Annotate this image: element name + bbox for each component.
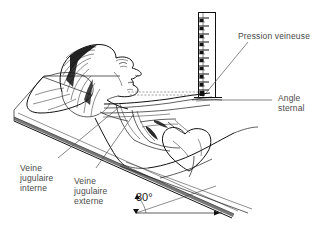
label-bed-angle: 30°: [136, 192, 153, 203]
leader-veine-jugulaire-externe: [96, 114, 134, 168]
heart: [162, 120, 210, 177]
manometer-ruler: [192, 13, 222, 101]
label-angle-sternal-line2: sternal: [278, 103, 305, 114]
label-veine-jugulaire-interne-line2: jugulaire: [20, 173, 53, 184]
label-veine-jugulaire-externe-line1: Veine: [74, 176, 96, 187]
label-veine-jugulaire-interne-line3: interne: [20, 183, 47, 194]
label-veine-jugulaire-externe-line2: jugulaire: [74, 186, 107, 197]
sternal-angle-reference-line: [128, 92, 198, 95]
head-profile: [107, 57, 141, 100]
jugular-veins: [102, 93, 212, 151]
leader-pression-veineuse: [206, 42, 248, 93]
jugular-venous-pressure-figure: Pression veineuse Angle sternal Veine ju…: [0, 0, 334, 227]
label-pression-veineuse: Pression veineuse: [238, 31, 310, 42]
label-veine-jugulaire-interne-line1: Veine: [20, 163, 42, 174]
hair: [60, 44, 116, 116]
label-veine-jugulaire-externe-line3: externe: [74, 196, 103, 207]
label-angle-sternal-line1: Angle: [278, 93, 301, 104]
